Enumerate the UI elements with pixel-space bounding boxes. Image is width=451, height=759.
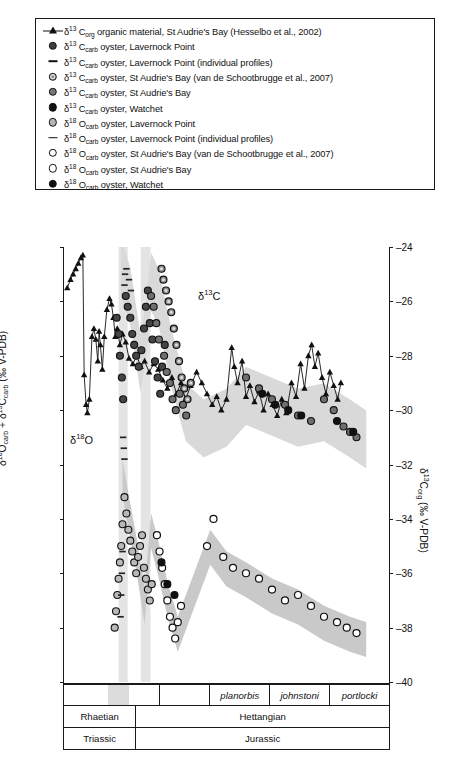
data-point-triangle xyxy=(89,333,95,339)
legend-item-label: δ13 Ccarb oyster, Lavernock Point xyxy=(64,38,195,53)
filled-circle-marker-icon xyxy=(49,42,57,50)
data-point-triangle xyxy=(80,252,86,258)
data-point-triangle xyxy=(319,374,325,380)
light-gray-circle-marker-icon xyxy=(49,118,57,126)
y-axis-left-tick-mark xyxy=(60,465,64,466)
stage-row: RhaetianHettangian xyxy=(63,706,390,728)
data-point-circle xyxy=(123,510,130,517)
data-point-circle xyxy=(150,303,157,310)
data-point-circle xyxy=(285,407,292,414)
period-row: TriassicJurassic xyxy=(63,728,390,750)
data-point-circle xyxy=(115,575,122,582)
data-point-circle xyxy=(135,363,142,370)
data-point-circle xyxy=(330,407,337,414)
data-point-circle xyxy=(179,401,186,408)
data-point-triangle xyxy=(99,366,105,372)
data-point-circle xyxy=(172,635,179,642)
data-point-triangle xyxy=(104,306,110,312)
data-point-dash xyxy=(121,447,127,449)
data-point-circle xyxy=(133,352,140,359)
data-point-circle xyxy=(131,341,138,348)
data-point-triangle xyxy=(67,276,73,282)
plot-clip xyxy=(64,247,389,683)
legend-item: δ18 Ocarb oyster, St Audrie's Bay xyxy=(36,161,434,176)
y-axis-right-tick-mark xyxy=(389,465,393,466)
legend-item-label: δ18 Ocarb oyster, St Audrie's Bay xyxy=(64,161,191,176)
data-point-dash xyxy=(119,572,125,574)
data-point-triangle xyxy=(91,325,97,331)
biozone-cell xyxy=(160,685,210,705)
data-point-circle xyxy=(116,559,123,566)
data-point-ring-center xyxy=(162,278,165,281)
data-point-dash xyxy=(126,279,132,281)
data-point-circle xyxy=(152,358,159,365)
data-point-circle xyxy=(282,597,289,604)
data-point-circle xyxy=(166,379,173,386)
data-point-circle xyxy=(111,624,118,631)
dash-marker-icon xyxy=(49,60,58,62)
data-point-circle xyxy=(176,390,183,397)
legend-marker xyxy=(42,116,64,129)
data-point-circle xyxy=(116,352,123,359)
chart-plot-area xyxy=(63,247,390,684)
open-circle-marker-icon xyxy=(49,149,57,157)
data-point-circle xyxy=(308,418,315,425)
y-axis-left-label: δ18Ocarb + δ13Ccarb (‰ V-PDB) xyxy=(0,331,8,466)
legend-item-label: δ13 Ccarb oyster, Lavernock Point (indiv… xyxy=(64,54,272,69)
legend-marker xyxy=(42,70,64,83)
data-point-triangle xyxy=(231,363,237,369)
data-point-circle xyxy=(164,581,171,588)
y-axis-right-tick-mark xyxy=(389,519,393,520)
data-point-triangle xyxy=(64,284,70,290)
data-point-dash xyxy=(120,437,126,439)
data-point-triangle xyxy=(297,361,303,367)
data-point-circle xyxy=(142,575,149,582)
data-point-circle xyxy=(127,537,134,544)
data-point-circle xyxy=(183,412,190,419)
data-point-circle xyxy=(153,320,160,327)
data-point-circle xyxy=(121,494,128,501)
y-axis-right-tick-label: –24 xyxy=(396,242,430,253)
data-point-circle xyxy=(129,548,136,555)
data-point-circle xyxy=(153,532,160,539)
data-point-triangle xyxy=(338,380,344,386)
legend-item: δ13 Ccarb oyster, St Audrie's Bay xyxy=(36,84,434,99)
data-point-circle xyxy=(119,521,126,528)
legend-item-label: δ18 Ocarb oyster, Lavernock Point (indiv… xyxy=(64,130,273,145)
legend-item: δ18 Ocarb oyster, Lavernock Point (indiv… xyxy=(36,130,434,145)
data-point-triangle xyxy=(308,341,314,347)
data-point-triangle xyxy=(101,333,107,339)
data-point-triangle xyxy=(199,380,205,386)
data-point-triangle xyxy=(106,295,112,301)
legend-box: δ13 Corg organic material, St Audrie's B… xyxy=(35,18,435,190)
data-envelope-band xyxy=(121,247,366,468)
data-point-triangle xyxy=(95,358,101,364)
y-axis-right-tick-mark xyxy=(389,682,393,683)
legend-marker xyxy=(42,162,64,175)
data-point-circle xyxy=(140,564,147,571)
data-point-triangle xyxy=(70,271,76,277)
data-point-circle xyxy=(155,336,162,343)
y-axis-right-tick-label: –40 xyxy=(396,677,430,688)
legend-item: δ13 Ccarb oyster, Lavernock Point (indiv… xyxy=(36,54,434,69)
y-axis-left-tick-mark xyxy=(60,573,64,574)
biozone-cell: johnstoni xyxy=(270,685,330,705)
y-axis-left-tick-mark xyxy=(60,519,64,520)
data-point-circle xyxy=(230,564,237,571)
data-point-circle xyxy=(129,331,136,338)
legend-item: δ18 Ocarb oyster, Watchet xyxy=(36,176,434,191)
data-point-ring-center xyxy=(180,376,183,379)
data-point-circle xyxy=(243,374,250,381)
data-point-circle xyxy=(243,570,250,577)
data-point-circle xyxy=(125,526,132,533)
data-point-circle xyxy=(161,341,168,348)
data-point-circle xyxy=(138,347,145,354)
data-point-ring-center xyxy=(165,289,168,292)
y-axis-right-tick-mark xyxy=(389,247,393,248)
data-point-circle xyxy=(334,418,341,425)
data-point-triangle xyxy=(204,390,210,396)
legend-item: δ13 Corg organic material, St Audrie's B… xyxy=(36,23,434,38)
data-point-circle xyxy=(343,624,350,631)
y-axis-right-tick-label: –30 xyxy=(396,405,430,416)
data-point-triangle xyxy=(239,358,245,364)
